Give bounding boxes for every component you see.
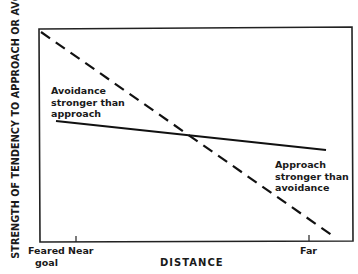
annotation-line: stronger than [275,171,349,183]
x-axis-label: DISTANCE [160,257,224,268]
tick-label-goal: goal [28,257,65,269]
tick-label-feared-goal: Feared goal [28,245,65,269]
plot-frame [39,27,353,242]
annotation-line: Approach [275,159,349,171]
annotation-line: Avoidance [51,85,125,97]
y-axis-label: STRENGTH OF TENDENCY TO APPROACH OR AVOI… [10,0,21,259]
approach-gradient-line [56,121,326,150]
tick-label-feared: Feared [28,245,65,257]
tick-label-far: Far [300,245,317,257]
annotation-line: avoidance [275,182,349,194]
chart-canvas [0,0,358,274]
annotation-line: stronger than [51,97,125,109]
tick-label-near: Near [68,245,94,257]
annotation-line: approach [51,108,125,120]
annotation-avoidance-stronger: Avoidance stronger than approach [51,85,125,120]
annotation-approach-stronger: Approach stronger than avoidance [275,159,349,194]
